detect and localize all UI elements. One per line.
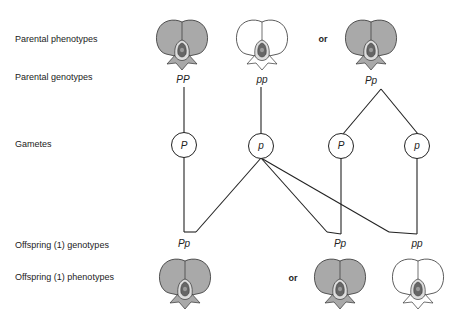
offspring-flower-pp (392, 259, 443, 309)
offspring-genotype: Pp (334, 238, 346, 249)
offspring-flower-Pp-2 (314, 259, 365, 309)
cross-diagram: P p P p (0, 0, 456, 325)
gamete-allele: P (181, 140, 188, 151)
parent-genotype: Pp (365, 75, 377, 86)
connector-lines (184, 87, 418, 234)
gamete-allele: P (338, 140, 345, 151)
parent-genotype: pp (256, 74, 267, 85)
offspring-genotype: pp (411, 238, 422, 249)
offspring-genotype: Pp (178, 238, 190, 249)
gamete-allele: p (413, 140, 420, 151)
offspring-flower-Pp-1 (159, 259, 210, 309)
parent-flower-pp (236, 20, 287, 70)
or-label: or (289, 273, 298, 283)
gamete-allele: p (257, 140, 264, 151)
parent-genotype: PP (176, 74, 189, 85)
gamete-circles (172, 133, 430, 159)
parent-flower-PP (156, 20, 207, 70)
parent-flower-Pp (345, 20, 396, 70)
or-label: or (319, 34, 328, 44)
